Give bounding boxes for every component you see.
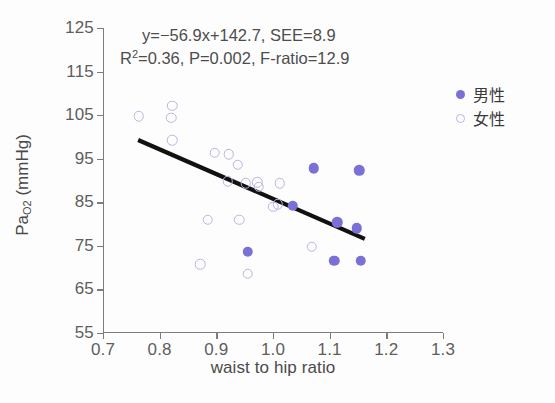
data-point-female (167, 100, 178, 111)
x-tick-mark (443, 333, 444, 339)
data-point-female (209, 147, 220, 158)
legend-item-male: 男性 (452, 82, 505, 106)
data-point-female (268, 201, 279, 212)
data-point-female (133, 111, 144, 122)
x-tick-label: 0.8 (148, 340, 172, 360)
y-tick-label: 75 (75, 236, 94, 256)
scatter-plot-figure: y=−56.9x+142.7, SEE=8.9 R2=0.36, P=0.002… (0, 0, 555, 403)
data-point-female (203, 214, 214, 225)
x-tick-label: 0.9 (204, 340, 228, 360)
data-point-female (234, 214, 245, 225)
x-tick-mark (330, 333, 331, 339)
legend: 男性 女性 (452, 82, 505, 130)
regression-line-layer (103, 28, 443, 333)
x-tick-label: 1.1 (318, 340, 342, 360)
legend-label-male: 男性 (473, 82, 505, 106)
plot-area: 1251151059585756555 0.70.80.91.01.11.21.… (103, 28, 443, 333)
data-point-female (242, 268, 253, 279)
y-axis-title-base: Pa (13, 215, 32, 236)
data-point-female (241, 178, 252, 189)
regression-line (138, 140, 365, 239)
x-axis-title: waist to hip ratio (103, 358, 443, 378)
data-point-female (167, 135, 178, 146)
data-point-male (352, 223, 363, 234)
y-tick-label: 85 (75, 192, 94, 212)
data-point-female (254, 181, 265, 192)
data-point-male (329, 255, 340, 266)
y-tick-label: 95 (75, 149, 94, 169)
data-point-male (332, 217, 343, 228)
data-point-female (195, 259, 206, 270)
data-point-female (275, 178, 286, 189)
y-tick-label: 65 (75, 279, 94, 299)
data-point-female (306, 241, 317, 252)
data-point-male (242, 247, 253, 258)
data-point-female (222, 176, 233, 187)
y-axis-title: PaO2 (mmHg) (13, 120, 33, 250)
female-marker-icon (452, 114, 468, 123)
y-axis-title-subscript: O2 (21, 200, 33, 215)
x-tick-mark (386, 333, 387, 339)
x-tick-mark (160, 333, 161, 339)
y-tick-label: 105 (65, 105, 94, 125)
legend-item-female: 女性 (452, 106, 505, 130)
x-tick-label: 1.2 (374, 340, 398, 360)
data-point-female (224, 149, 235, 160)
y-tick-label: 125 (65, 18, 94, 38)
male-marker-icon (452, 90, 468, 99)
x-tick-label: 1.3 (431, 340, 455, 360)
data-point-female (233, 160, 244, 171)
x-tick-mark (103, 333, 104, 339)
x-tick-mark (273, 333, 274, 339)
data-point-male (354, 165, 365, 176)
y-axis-title-unit: (mmHg) (13, 134, 32, 200)
x-tick-label: 0.7 (91, 340, 115, 360)
data-point-female (166, 113, 177, 124)
data-point-male (309, 163, 320, 174)
y-tick-label: 115 (66, 62, 94, 82)
x-tick-label: 1.0 (261, 340, 285, 360)
x-tick-mark (216, 333, 217, 339)
data-point-male (288, 201, 299, 212)
legend-label-female: 女性 (473, 106, 505, 130)
data-point-male (356, 255, 367, 266)
